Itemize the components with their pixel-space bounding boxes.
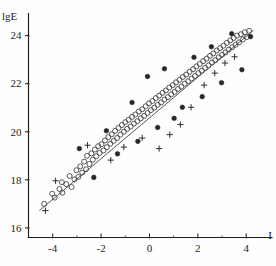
marker-filled-circle [162, 66, 167, 71]
marker-plus [232, 54, 238, 60]
data-points [42, 28, 253, 213]
marker-plus [84, 142, 90, 148]
marker-plus [222, 60, 228, 66]
marker-filled-circle [145, 74, 150, 79]
marker-filled-circle [155, 125, 160, 130]
y-tick-label: 22 [11, 77, 22, 89]
marker-filled-circle [192, 55, 197, 60]
marker-plus [121, 144, 127, 150]
marker-filled-circle [136, 139, 141, 144]
marker-open-circle [74, 168, 79, 173]
marker-filled-circle [104, 128, 109, 133]
marker-open-circle [78, 164, 83, 169]
series-open-circle [42, 28, 252, 206]
x-tick-label: 2 [195, 242, 201, 254]
marker-open-circle [111, 138, 116, 143]
marker-open-circle [247, 28, 252, 33]
marker-open-circle [145, 111, 150, 116]
marker-plus [52, 178, 58, 184]
marker-plus [42, 207, 48, 213]
scatter-plot-figure: 1618202224-4-2024lgEI [0, 0, 276, 266]
marker-open-circle [69, 185, 74, 190]
marker-filled-circle [77, 146, 82, 151]
marker-open-circle [121, 129, 126, 134]
marker-open-circle [64, 182, 69, 187]
marker-plus [177, 121, 183, 127]
x-tick-label: -4 [48, 242, 58, 254]
marker-open-circle [118, 132, 123, 137]
axis-labels: 1618202224-4-2024lgEI [2, 10, 272, 254]
marker-filled-circle [240, 67, 245, 72]
marker-plus [188, 104, 194, 110]
y-tick-label: 20 [11, 126, 23, 138]
marker-open-circle [113, 128, 118, 133]
marker-filled-circle [229, 31, 234, 36]
marker-open-circle [87, 161, 92, 166]
marker-open-circle [116, 125, 121, 130]
y-tick-label: 16 [11, 222, 23, 234]
marker-filled-circle [172, 116, 177, 121]
y-tick-label: 18 [11, 174, 23, 186]
marker-filled-circle [248, 34, 253, 39]
x-tick-label: 4 [243, 242, 249, 254]
marker-filled-circle [92, 175, 97, 180]
marker-open-circle [106, 135, 111, 140]
marker-plus [201, 82, 207, 88]
y-tick-label: 24 [11, 29, 23, 41]
marker-filled-circle [219, 80, 224, 85]
marker-plus [167, 132, 173, 138]
y-axis-title: lgE [2, 10, 18, 22]
marker-open-circle [119, 123, 124, 128]
marker-filled-circle [180, 105, 185, 110]
marker-plus [156, 145, 162, 151]
marker-open-circle [67, 173, 72, 178]
marker-filled-circle [209, 44, 214, 49]
x-tick-label: 0 [147, 242, 153, 254]
marker-open-circle [143, 104, 148, 109]
plot-canvas: 1618202224-4-2024lgEI [0, 0, 276, 266]
marker-filled-circle [115, 152, 120, 157]
marker-open-circle [42, 201, 47, 206]
marker-open-circle [108, 141, 113, 146]
marker-plus [212, 70, 218, 76]
marker-filled-circle [130, 100, 135, 105]
x-axis-title: I [268, 229, 272, 241]
x-tick-label: -2 [96, 242, 105, 254]
marker-open-circle [82, 159, 87, 164]
marker-filled-circle [200, 94, 205, 99]
marker-plus [108, 157, 114, 163]
